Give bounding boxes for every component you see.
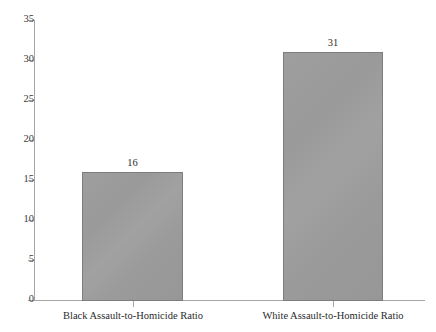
y-tick-label: 15 xyxy=(10,174,34,185)
y-tick-35: 35 xyxy=(0,20,34,21)
y-tick-0: 0 xyxy=(0,300,34,301)
y-axis-line xyxy=(34,20,35,301)
y-tick-label: 10 xyxy=(10,214,34,225)
y-tick-label: 5 xyxy=(10,254,34,265)
bar-chart-figure: 35 30 25 20 15 10 5 0 xyxy=(0,0,436,332)
bar-white-assault-to-homicide-ratio[interactable] xyxy=(283,52,383,301)
y-tick-label: 20 xyxy=(10,134,34,145)
x-tick-mark-1 xyxy=(133,301,134,307)
category-label-1: Black Assault-to-Homicide Ratio xyxy=(33,310,233,322)
x-tick-mark-2 xyxy=(333,301,334,307)
y-tick-label: 25 xyxy=(10,94,34,105)
y-tick-5: 5 xyxy=(0,260,34,261)
y-tick-label: 0 xyxy=(10,294,34,305)
y-tick-label: 35 xyxy=(10,14,34,25)
y-tick-20: 20 xyxy=(0,140,34,141)
bar-value-label-2: 31 xyxy=(283,37,383,48)
y-tick-10: 10 xyxy=(0,220,34,221)
plot-area: 35 30 25 20 15 10 5 0 xyxy=(0,0,436,332)
y-tick-label: 30 xyxy=(10,54,34,65)
y-tick-25: 25 xyxy=(0,100,34,101)
bar-value-label-1: 16 xyxy=(82,157,183,168)
y-tick-30: 30 xyxy=(0,60,34,61)
y-tick-15: 15 xyxy=(0,180,34,181)
category-label-2: White Assault-to-Homicide Ratio xyxy=(233,310,433,322)
bar-black-assault-to-homicide-ratio[interactable] xyxy=(82,172,183,301)
